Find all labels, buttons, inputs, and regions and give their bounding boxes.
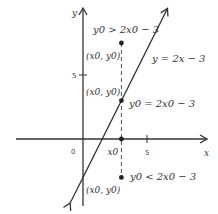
x0-label: x0	[107, 147, 118, 157]
y-tick-label: 5	[72, 72, 76, 80]
condition-on-label: y0 = 2x0 − 3	[128, 98, 195, 109]
line-equation-label: y = 2x − 3	[151, 53, 206, 64]
condition-below-label: y0 < 2x0 − 3	[129, 171, 196, 182]
condition-above-label: y0 > 2x0 − 3	[92, 24, 159, 35]
point-on-x-axis	[119, 137, 124, 142]
coord-on-label: (x0, y0)	[86, 87, 121, 97]
origin-label: 0	[71, 148, 75, 156]
point-below-line	[119, 175, 124, 180]
x-axis-label: x	[204, 148, 209, 158]
plot-canvas: x y 0 5 5 y = 2x − 3 x0 y0 > 2x0 − 3 y0 …	[0, 0, 218, 214]
y-axis-label: y	[71, 8, 78, 18]
point-above-line	[119, 41, 124, 46]
diagram: x y 0 5 5 y = 2x − 3 x0 y0 > 2x0 − 3 y0 …	[0, 0, 218, 214]
coord-above-label: (x0, y0)	[86, 51, 121, 61]
coord-below-label: (x0, y0)	[86, 185, 121, 195]
point-on-line	[119, 98, 124, 103]
x-tick-label: 5	[145, 149, 149, 157]
